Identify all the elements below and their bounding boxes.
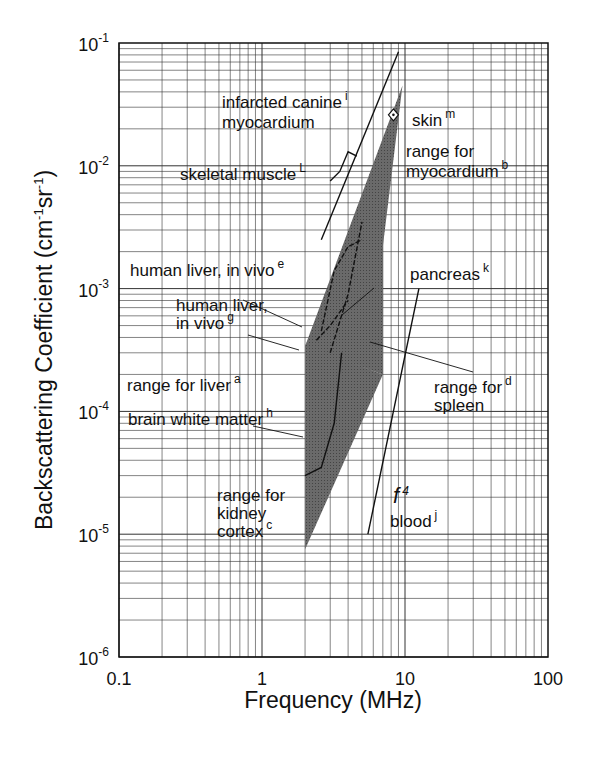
annotation-label: skinm (412, 107, 455, 130)
annotation-label: infarcted caninei (222, 89, 348, 112)
annotation-label: pancreask (410, 261, 490, 284)
x-tick-label: 0.1 (106, 669, 131, 689)
annotation-label: spleen (434, 396, 484, 415)
annotation-label: skeletal muscleL (180, 161, 306, 184)
x-tick-label: 100 (533, 669, 563, 689)
annotation-label: myocardium (222, 113, 315, 132)
annotation-label: kidney (217, 504, 267, 523)
y-tick-label: 10-6 (78, 645, 109, 669)
x-axis-label: Frequency (MHz) (244, 687, 422, 713)
annotation-label: range for (406, 142, 474, 161)
shaded-regions (262, 86, 402, 550)
y-tick-label: 10-5 (78, 522, 109, 546)
annotation-label: brain white matterh (128, 406, 273, 429)
skin-marker-dot (392, 114, 395, 117)
annotation-label: range ford (434, 374, 512, 397)
y-axis-label: Backscattering Coefficient (cm-1sr-1) (31, 170, 57, 530)
annotation-label: myocardiumb (406, 158, 509, 181)
x-tick-label: 10 (395, 669, 415, 689)
backscatter-chart: infarcted canineimyocardiumskinmskeletal… (0, 0, 592, 763)
y-tick-label: 10-2 (78, 154, 109, 178)
leader-arrow (370, 342, 473, 372)
annotation-label: human liver, (176, 296, 268, 315)
annotation-label: f4 (393, 483, 409, 508)
annotation-label: bloodj (390, 508, 437, 531)
y-tick-label: 10-3 (78, 277, 109, 301)
series-skeletal-muscle-L (330, 152, 357, 181)
annotation-label: range for livera (127, 372, 241, 395)
annotation-label: range for (217, 486, 285, 505)
annotation-label: human liver, in vivoe (130, 257, 285, 280)
y-tick-label: 10-4 (78, 399, 109, 423)
y-tick-label: 10-1 (78, 31, 109, 55)
x-tick-label: 1 (257, 669, 267, 689)
